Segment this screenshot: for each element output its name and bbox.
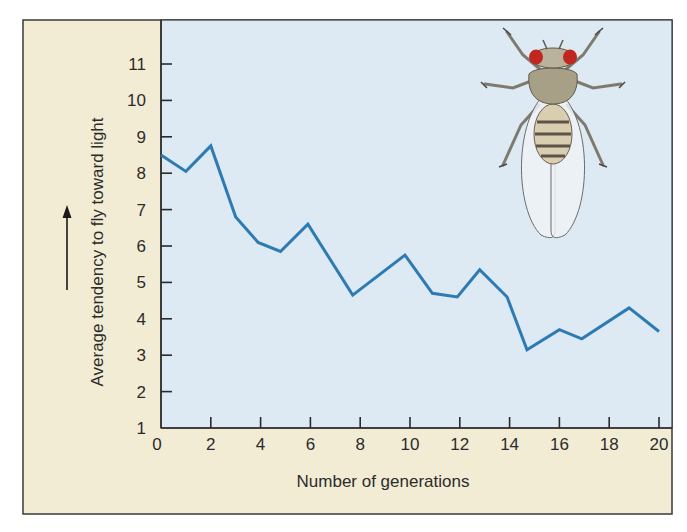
x-tick-label: 12 (450, 435, 469, 454)
y-tick-label: 11 (128, 55, 146, 74)
y-tick-label: 5 (137, 273, 146, 292)
y-tick-label: 10 (127, 91, 146, 110)
fly-eye-right (563, 50, 577, 65)
y-tick-label: 4 (137, 310, 146, 329)
y-tick-label: 2 (137, 383, 146, 402)
x-tick-label: 20 (650, 435, 669, 454)
y-tick-label: 8 (137, 164, 146, 183)
x-tick-label: 6 (306, 435, 315, 454)
fly-eye-left (529, 50, 543, 65)
y-axis-title: Average tendency to fly toward light (88, 117, 107, 386)
x-tick-label: 16 (550, 435, 569, 454)
x-tick-label: 2 (206, 435, 215, 454)
plot-area (161, 20, 672, 428)
chart: 1234567891011 02468101214161820 Average … (0, 0, 687, 532)
y-tick-label: 9 (137, 128, 146, 147)
y-tick-label: 3 (137, 346, 146, 365)
x-tick-label: 0 (152, 435, 161, 454)
x-tick-label: 14 (500, 435, 519, 454)
y-tick-label: 6 (137, 237, 146, 256)
x-tick-label: 18 (600, 435, 619, 454)
x-tick-label: 10 (401, 435, 420, 454)
y-tick-label: 7 (137, 201, 146, 220)
x-axis-title: Number of generations (297, 472, 470, 491)
x-tick-label: 8 (355, 435, 364, 454)
y-tick-label: 1 (137, 419, 146, 438)
x-tick-label: 4 (256, 435, 265, 454)
